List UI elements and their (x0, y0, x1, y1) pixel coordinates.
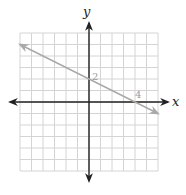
x-intercept-label: 4 (135, 89, 141, 100)
y-axis-label: y (82, 4, 91, 19)
y-intercept-label: 2 (92, 71, 98, 82)
x-axis-label: x (172, 94, 180, 109)
coordinate-plane: x y 2 4 (0, 0, 186, 195)
